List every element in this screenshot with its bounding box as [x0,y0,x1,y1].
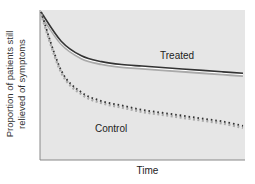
treated-label: Treated [160,50,194,61]
y-axis-label: Proportion of patients still relieved of… [4,19,34,149]
y-axis-label-line2: relieved of symptoms [16,19,28,149]
y-axis-label-line1: Proportion of patients still [4,19,16,149]
control-label: Control [95,123,127,134]
chart-canvas: Treated Control [0,0,255,184]
survival-chart: Treated Control Proportion of patients s… [0,0,255,184]
x-axis-label: Time [0,165,255,176]
